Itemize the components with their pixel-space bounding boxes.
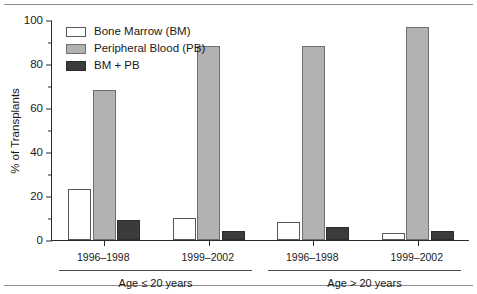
bar-bone_marrow-3 [382,233,405,240]
x-axis-tick-1 [209,240,210,246]
x-axis-period-label: 1999–2002 [390,252,443,263]
y-axis-tick-label: 100 [17,15,43,27]
y-axis-tick-label: 60 [17,103,43,115]
x-axis-tick-3 [418,240,419,246]
y-axis-title: % of Transplants [8,21,22,241]
bar-bm_plus_pb-3 [431,231,454,240]
x-axis-period-label: 1999–2002 [181,252,234,263]
bar-bone_marrow-2 [277,222,300,240]
chart-figure: % of Transplants 020406080100 Bone Marro… [0,0,477,294]
bar-bone_marrow-1 [173,218,196,240]
legend-item-bm: Bone Marrow (BM) [66,24,205,39]
y-axis-tick-major [46,21,52,22]
x-axis-group-label: Age ≤ 20 years [119,278,193,289]
bottom-divider-rule [4,285,473,286]
x-axis-period-label: 1996–1998 [286,252,339,263]
bar-peripheral_blood-0 [93,90,116,240]
y-axis-tick-label: 80 [17,59,43,71]
y-axis-tick-minor [48,43,52,44]
legend-item-pb: Peripheral Blood (PB) [66,41,205,56]
bar-bm_plus_pb-0 [117,220,140,240]
bar-peripheral_blood-1 [197,46,220,240]
legend-swatch-bm-icon [66,27,86,37]
y-axis-tick-minor [48,87,52,88]
legend-swatch-bmpb-icon [66,61,86,71]
legend-item-bmpb: BM + PB [66,58,205,73]
chart-legend: Bone Marrow (BM)Peripheral Blood (PB)BM … [66,24,205,75]
x-axis-period-label: 1996–1998 [77,252,130,263]
x-axis-group-label: Age > 20 years [327,278,401,289]
y-axis-tick-label: 0 [17,235,43,247]
x-axis-group-bracket [268,270,460,271]
x-axis-tick-0 [104,240,105,246]
bar-bm_plus_pb-2 [326,227,349,240]
bar-peripheral_blood-3 [406,27,429,240]
y-axis-tick-minor [48,175,52,176]
y-axis-tick-minor [48,131,52,132]
y-axis-tick-label: 20 [17,191,43,203]
y-axis-tick-major [46,65,52,66]
legend-label: Bone Marrow (BM) [94,26,191,38]
y-axis-tick-major [46,153,52,154]
y-axis-tick-label: 40 [17,147,43,159]
legend-label: BM + PB [94,60,140,72]
bar-peripheral_blood-2 [302,46,325,240]
top-divider-rule [4,4,473,5]
x-axis-group-bracket [59,270,251,271]
legend-label: Peripheral Blood (PB) [94,43,205,55]
y-axis-tick-major [46,241,52,242]
bar-bm_plus_pb-1 [222,231,245,240]
y-axis-tick-major [46,197,52,198]
bar-bone_marrow-0 [68,189,91,240]
legend-swatch-pb-icon [66,44,86,54]
y-axis-tick-major [46,109,52,110]
y-axis-tick-minor [48,219,52,220]
x-axis-tick-2 [313,240,314,246]
